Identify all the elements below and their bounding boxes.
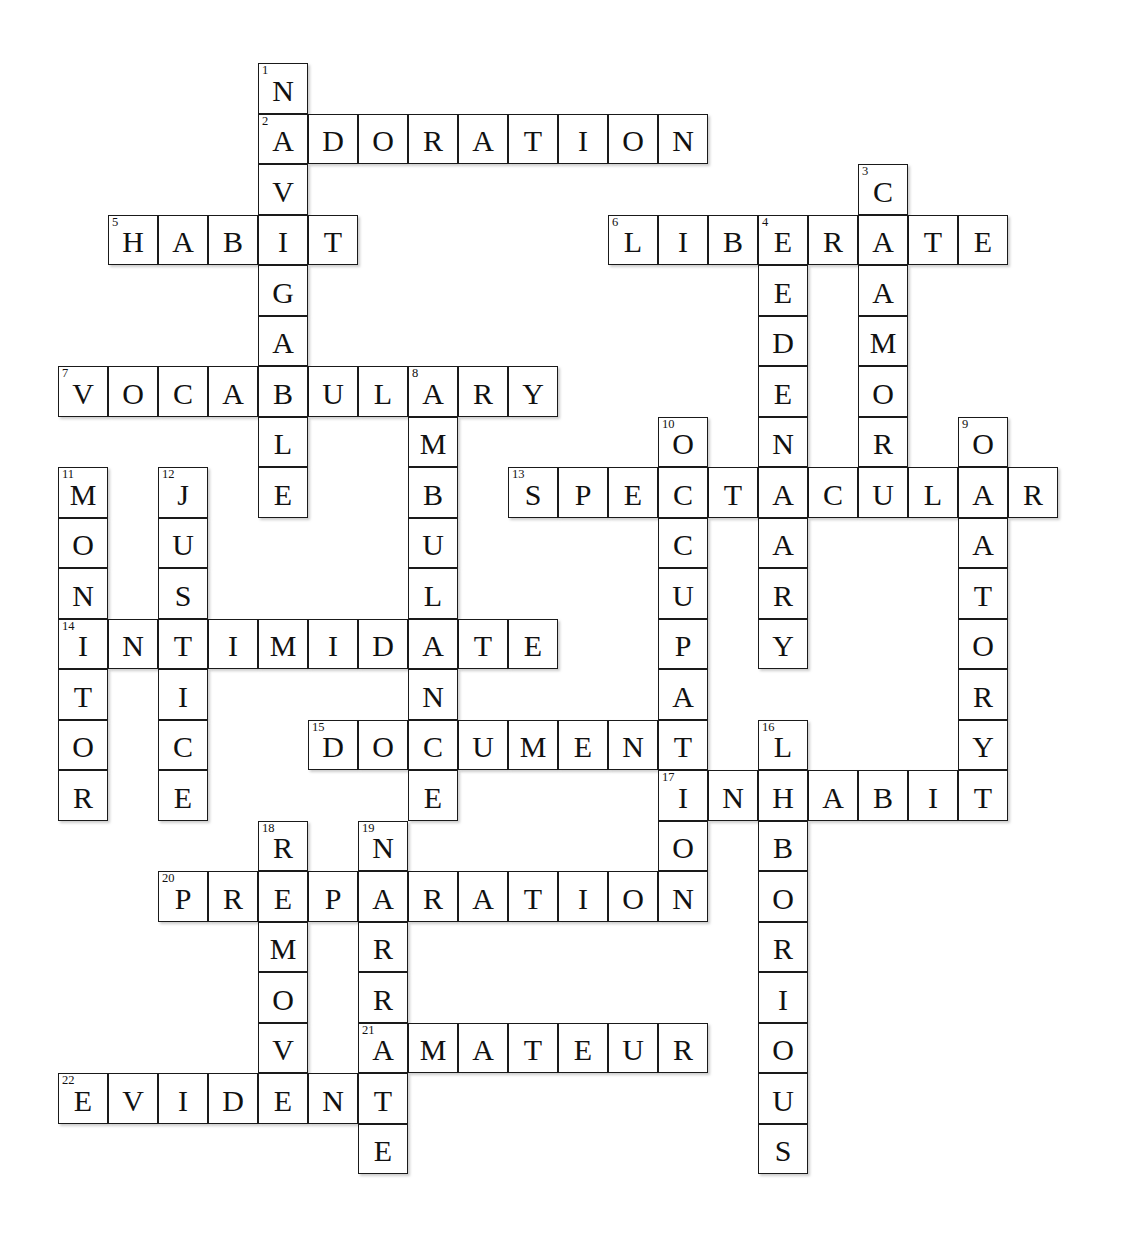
crossword-cell[interactable]: I — [908, 770, 958, 821]
crossword-cell[interactable]: C — [408, 720, 458, 771]
crossword-cell[interactable]: R — [958, 669, 1008, 720]
crossword-cell[interactable]: O — [858, 366, 908, 417]
crossword-cell[interactable]: B — [258, 366, 308, 417]
crossword-cell[interactable]: S — [158, 568, 208, 619]
crossword-cell[interactable]: A — [258, 316, 308, 367]
crossword-cell[interactable]: R — [408, 114, 458, 165]
crossword-cell[interactable]: 17I — [658, 770, 708, 821]
crossword-cell[interactable]: O — [608, 114, 658, 165]
crossword-grid[interactable]: 1N2ADORATIONV3C5HABIT6LIB4ERATEGEAADM7VO… — [0, 0, 1126, 1233]
crossword-cell[interactable]: M — [858, 316, 908, 367]
crossword-cell[interactable]: V — [258, 1023, 308, 1074]
crossword-cell[interactable]: A — [808, 770, 858, 821]
crossword-cell[interactable]: U — [408, 518, 458, 569]
crossword-cell[interactable]: U — [758, 1073, 808, 1124]
crossword-cell[interactable]: H — [758, 770, 808, 821]
crossword-cell[interactable]: 9O — [958, 417, 1008, 468]
crossword-cell[interactable]: U — [308, 366, 358, 417]
crossword-cell[interactable]: A — [658, 669, 708, 720]
crossword-cell[interactable]: T — [958, 770, 1008, 821]
crossword-cell[interactable]: A — [208, 366, 258, 417]
crossword-cell[interactable]: 6L — [608, 215, 658, 266]
crossword-cell[interactable]: 2A — [258, 114, 308, 165]
crossword-cell[interactable]: U — [658, 568, 708, 619]
crossword-cell[interactable]: P — [308, 871, 358, 922]
crossword-cell[interactable]: G — [258, 265, 308, 316]
crossword-cell[interactable]: T — [508, 1023, 558, 1074]
crossword-cell[interactable]: D — [758, 316, 808, 367]
crossword-cell[interactable]: T — [908, 215, 958, 266]
crossword-cell[interactable]: T — [708, 467, 758, 518]
crossword-cell[interactable]: T — [508, 114, 558, 165]
crossword-cell[interactable]: L — [258, 417, 308, 468]
crossword-cell[interactable]: 3C — [858, 164, 908, 215]
crossword-cell[interactable]: B — [408, 467, 458, 518]
crossword-cell[interactable]: O — [608, 871, 658, 922]
crossword-cell[interactable]: C — [158, 366, 208, 417]
crossword-cell[interactable]: 8A — [408, 366, 458, 417]
crossword-cell[interactable]: D — [308, 114, 358, 165]
crossword-cell[interactable]: R — [758, 922, 808, 973]
crossword-cell[interactable]: T — [458, 619, 508, 670]
crossword-cell[interactable]: O — [958, 619, 1008, 670]
crossword-cell[interactable]: I — [558, 871, 608, 922]
crossword-cell[interactable]: C — [158, 720, 208, 771]
crossword-cell[interactable]: A — [358, 871, 408, 922]
crossword-cell[interactable]: 19N — [358, 821, 408, 872]
crossword-cell[interactable]: A — [958, 467, 1008, 518]
crossword-cell[interactable]: P — [558, 467, 608, 518]
crossword-cell[interactable]: 4E — [758, 215, 808, 266]
crossword-cell[interactable]: D — [208, 1073, 258, 1124]
crossword-cell[interactable]: A — [158, 215, 208, 266]
crossword-cell[interactable]: 13S — [508, 467, 558, 518]
crossword-cell[interactable]: T — [158, 619, 208, 670]
crossword-cell[interactable]: N — [658, 114, 708, 165]
crossword-cell[interactable]: A — [458, 1023, 508, 1074]
crossword-cell[interactable]: A — [458, 114, 508, 165]
crossword-cell[interactable]: A — [958, 518, 1008, 569]
crossword-cell[interactable]: M — [408, 417, 458, 468]
crossword-cell[interactable]: R — [858, 417, 908, 468]
crossword-cell[interactable]: O — [108, 366, 158, 417]
crossword-cell[interactable]: T — [308, 215, 358, 266]
crossword-cell[interactable]: E — [558, 720, 608, 771]
crossword-cell[interactable]: R — [208, 871, 258, 922]
crossword-cell[interactable]: 7V — [58, 366, 108, 417]
crossword-cell[interactable]: R — [358, 922, 408, 973]
crossword-cell[interactable]: S — [758, 1124, 808, 1175]
crossword-cell[interactable]: 12J — [158, 467, 208, 518]
crossword-cell[interactable]: O — [258, 972, 308, 1023]
crossword-cell[interactable]: O — [758, 1023, 808, 1074]
crossword-cell[interactable]: M — [258, 619, 308, 670]
crossword-cell[interactable]: E — [758, 265, 808, 316]
crossword-cell[interactable]: E — [558, 1023, 608, 1074]
crossword-cell[interactable]: N — [408, 669, 458, 720]
crossword-cell[interactable]: I — [258, 215, 308, 266]
crossword-cell[interactable]: U — [158, 518, 208, 569]
crossword-cell[interactable]: V — [258, 164, 308, 215]
crossword-cell[interactable]: T — [58, 669, 108, 720]
crossword-cell[interactable]: A — [758, 518, 808, 569]
crossword-cell[interactable]: T — [508, 871, 558, 922]
crossword-cell[interactable]: A — [458, 871, 508, 922]
crossword-cell[interactable]: P — [658, 619, 708, 670]
crossword-cell[interactable]: R — [658, 1023, 708, 1074]
crossword-cell[interactable]: E — [258, 467, 308, 518]
crossword-cell[interactable]: O — [58, 518, 108, 569]
crossword-cell[interactable]: L — [358, 366, 408, 417]
crossword-cell[interactable]: C — [808, 467, 858, 518]
crossword-cell[interactable]: I — [658, 215, 708, 266]
crossword-cell[interactable]: U — [458, 720, 508, 771]
crossword-cell[interactable]: T — [658, 720, 708, 771]
crossword-cell[interactable]: M — [408, 1023, 458, 1074]
crossword-cell[interactable]: N — [108, 619, 158, 670]
crossword-cell[interactable]: I — [758, 972, 808, 1023]
crossword-cell[interactable]: E — [758, 366, 808, 417]
crossword-cell[interactable]: 1N — [258, 63, 308, 114]
crossword-cell[interactable]: 10O — [658, 417, 708, 468]
crossword-cell[interactable]: O — [58, 720, 108, 771]
crossword-cell[interactable]: O — [758, 871, 808, 922]
crossword-cell[interactable]: C — [658, 518, 708, 569]
crossword-cell[interactable]: R — [758, 568, 808, 619]
crossword-cell[interactable]: I — [308, 619, 358, 670]
